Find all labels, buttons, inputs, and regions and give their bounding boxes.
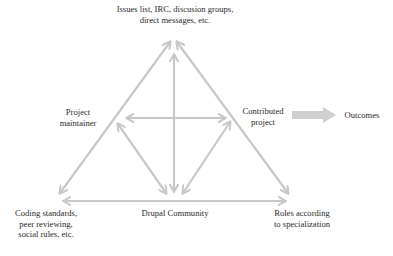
label-outcomes: Outcomes [337,110,387,121]
label-coding-standards: Coding standards, peer reviewing, social… [6,208,86,240]
label-contributed-project: Contributed project [234,106,292,127]
label-project-maintainer: Project maintainer [48,107,108,128]
label-roles-specialization: Roles according to specialization [262,208,342,229]
arrow-left-to-community [118,124,166,193]
block-arrow-to-outcomes [292,107,336,123]
label-drupal-community: Drupal Community [130,208,220,219]
label-communication-channels: Issues list, IRC, discusion groups, dire… [103,4,247,25]
arrow-right-to-community [183,122,230,193]
